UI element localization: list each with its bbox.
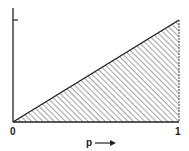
x-tick-label-1: 1 — [175, 126, 181, 137]
x-tick-label-0: 0 — [10, 126, 16, 137]
x-axis-label: p — [86, 137, 92, 148]
diagram-canvas: 0 1 p — [0, 0, 189, 151]
right-arrow-icon — [95, 140, 116, 146]
